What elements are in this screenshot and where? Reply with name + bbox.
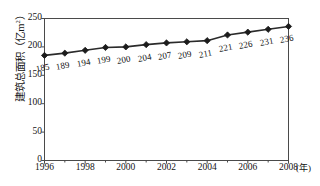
plot-area — [0, 0, 320, 186]
x-axis-tick-label: 1998 — [65, 162, 105, 172]
x-axis-tick-label: 2000 — [106, 162, 146, 172]
y-axis-tick-label: 50 — [16, 126, 42, 136]
y-axis-tick-label: 200 — [16, 40, 42, 50]
x-axis-unit-label: (年) — [296, 161, 311, 174]
y-axis-tick-labels: 050100150200250 — [14, 0, 42, 186]
data-point-label: 204 — [137, 51, 152, 63]
y-axis-tick-label: 250 — [16, 12, 42, 22]
x-axis-tick-label: 2006 — [228, 162, 268, 172]
x-axis-tick-label: 2004 — [187, 162, 227, 172]
x-axis-tick-label: 2002 — [147, 162, 187, 172]
y-axis-tick-label: 100 — [16, 97, 42, 107]
chart-figure: 建筑总面积（亿m2） 050100150200250 1996199820002… — [0, 0, 320, 186]
data-point-label: 211 — [198, 47, 213, 59]
x-axis-tick-label: 1996 — [25, 162, 65, 172]
x-axis-tick-labels: 1996199820002002200420062008 — [0, 162, 320, 178]
